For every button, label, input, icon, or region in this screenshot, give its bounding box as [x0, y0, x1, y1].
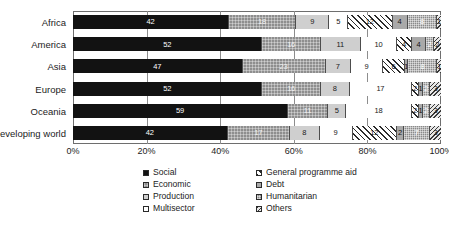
bar-segment-value: 11	[304, 107, 311, 115]
cross-hatch-swatch	[256, 206, 262, 212]
category-label-america: America	[31, 39, 66, 50]
solid-black-swatch	[143, 170, 149, 176]
bar-segment-value: 8	[333, 85, 337, 93]
bar-segment-value: 2	[424, 107, 428, 115]
bar-segment-oceania-production: 5	[328, 104, 346, 118]
bar-segment-value: 42	[147, 18, 155, 26]
bar-segment-value: 4	[398, 18, 402, 26]
bar-segment-africa-humanitarian: 8	[408, 15, 438, 29]
bar-segment-oceania-economic: 11	[288, 104, 328, 118]
plot-area: 4218951248152161110442247237961815216817…	[73, 11, 441, 144]
bar-segment-value: 16	[287, 41, 295, 49]
x-tick-label-40: 40%	[211, 146, 229, 156]
bar-segment-value: 59	[176, 107, 184, 115]
bar-segment-africa-others: 1	[437, 15, 441, 29]
bar-segment-value: 7	[336, 63, 340, 71]
bar-segment-value: 11	[337, 41, 344, 49]
bar-segment-america-general-programme-aid: 4	[397, 37, 412, 51]
category-label-asia: Asia	[48, 61, 66, 72]
legend-item-production[interactable]: Production	[143, 191, 250, 202]
bar-segment-asia-humanitarian: 8	[408, 59, 437, 73]
y-axis-category-labels: AfricaAmericaAsiaEuropeOceaniaDeveloping…	[0, 11, 70, 144]
legend-item-social[interactable]: Social	[143, 167, 250, 178]
bar-segment-value: 8	[420, 18, 424, 26]
bar-segment-value: 1	[437, 63, 441, 71]
legend-item-economic[interactable]: Economic	[143, 179, 250, 190]
bar-segment-value: 17	[376, 85, 384, 93]
bar-segment-value: 7	[415, 129, 419, 137]
bar-segment-america-production: 11	[321, 37, 361, 51]
bar-segment-america-debt: 4	[412, 37, 427, 51]
bar-segment-value: 2	[413, 85, 417, 93]
bar-segment-value: 5	[336, 18, 340, 26]
legend-item-general-programme-aid[interactable]: General programme aid	[256, 167, 366, 178]
bar-segment-value: 3	[434, 107, 438, 115]
legend-item-label: Humanitarian	[266, 191, 317, 202]
legend-item-label: Social	[153, 167, 176, 178]
legend-item-debt[interactable]: Debt	[256, 179, 366, 190]
legend-item-label: Production	[153, 191, 194, 202]
bar-segment-value: 5	[335, 107, 339, 115]
bar-segment-america-social: 52	[73, 37, 262, 51]
x-tick-label-80: 80%	[358, 146, 376, 156]
bar-segment-europe-economic: 16	[262, 82, 320, 96]
legend-item-humanitarian[interactable]: Humanitarian	[256, 191, 366, 202]
bar-segment-developing-world-multisector: 9	[320, 126, 353, 140]
category-label-europe: Europe	[35, 83, 66, 94]
bar-segment-value: 52	[163, 41, 171, 49]
category-label-africa: Africa	[42, 17, 66, 28]
bar-segment-developing-world-economic: 17	[228, 126, 291, 140]
bar-segment-value: 2	[398, 129, 402, 137]
bar-segment-value: 8	[302, 129, 306, 137]
bar-segment-value: 16	[287, 85, 295, 93]
bar-segment-africa-general-programme-aid: 12	[348, 15, 393, 29]
legend-item-others[interactable]: Others	[256, 203, 366, 214]
bar-segment-value: 6	[392, 63, 396, 71]
bar-segment-value: 2	[435, 41, 439, 49]
white-swatch	[143, 206, 149, 212]
bar-segment-developing-world-social: 42	[73, 126, 228, 140]
bar-segment-africa-social: 42	[73, 15, 229, 29]
bar-segment-developing-world-humanitarian: 7	[404, 126, 430, 140]
category-label-oceania: Oceania	[31, 105, 66, 116]
bar-segment-asia-social: 47	[73, 59, 243, 73]
light-gray-swatch	[143, 194, 149, 200]
bar-segment-value: 10	[375, 41, 383, 49]
bar-segment-europe-general-programme-aid: 2	[412, 82, 419, 96]
bar-segment-value: 18	[258, 18, 266, 26]
bar-segment-value: 42	[146, 129, 154, 137]
x-tick-label-100: 100%	[429, 146, 449, 156]
stacked-bar-chart: AfricaAmericaAsiaEuropeOceaniaDeveloping…	[0, 0, 449, 228]
bar-segment-value: 23	[280, 63, 288, 71]
bar-segment-asia-multisector: 9	[351, 59, 383, 73]
bar-segment-asia-general-programme-aid: 6	[383, 59, 405, 73]
bar-segment-value: 3	[434, 85, 438, 93]
bar-row-africa: 42189512481	[73, 15, 441, 29]
legend-item-multisector[interactable]: Multisector	[143, 203, 250, 214]
bar-segment-value: 18	[375, 107, 383, 115]
legend-item-label: Debt	[266, 179, 284, 190]
bar-segment-value: 17	[254, 129, 262, 137]
x-axis-tick-labels: 0%20%40%60%80%100%	[73, 146, 441, 160]
bar-segment-value: 12	[370, 129, 378, 137]
bar-segment-value: 4	[417, 41, 421, 49]
bar-segment-america-economic: 16	[262, 37, 320, 51]
bar-segment-oceania-multisector: 18	[346, 104, 412, 118]
bar-segment-europe-humanitarian: 2	[423, 82, 430, 96]
bar-segment-europe-social: 52	[73, 82, 262, 96]
x-tick-label-60: 60%	[285, 146, 303, 156]
legend-item-label: General programme aid	[266, 167, 357, 178]
bar-row-developing-world: 42178912273	[73, 126, 441, 140]
bar-segment-africa-production: 9	[296, 15, 329, 29]
bar-segment-oceania-humanitarian: 2	[423, 104, 430, 118]
bar-segment-value: 2	[424, 85, 428, 93]
bar-segment-oceania-others: 3	[430, 104, 441, 118]
bar-segment-value: 1	[437, 18, 441, 26]
bar-segment-asia-production: 7	[326, 59, 351, 73]
bar-segment-america-humanitarian: 2	[426, 37, 433, 51]
bar-segment-oceania-social: 59	[73, 104, 288, 118]
bar-segment-value: 9	[365, 63, 369, 71]
bar-segment-value: 9	[310, 18, 314, 26]
bar-segment-oceania-general-programme-aid: 2	[412, 104, 419, 118]
bar-segment-africa-multisector: 5	[329, 15, 348, 29]
